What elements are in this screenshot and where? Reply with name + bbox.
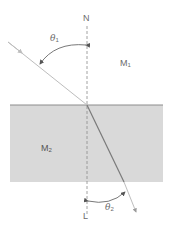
refracted-ray-outside — [124, 182, 136, 212]
medium-2-region — [10, 105, 163, 182]
theta1-arc — [40, 45, 86, 64]
theta2-arc — [88, 192, 125, 202]
normal-top-label: N — [83, 14, 90, 23]
medium1-label: M1 — [120, 59, 131, 68]
theta2-label: θ2 — [105, 203, 114, 212]
diagram-graphics — [0, 0, 180, 234]
medium2-label: M2 — [41, 144, 52, 153]
normal-bottom-label: L — [83, 212, 88, 221]
refraction-diagram: N L θ1 θ2 M1 M2 — [0, 0, 180, 234]
theta1-label: θ1 — [50, 34, 59, 43]
